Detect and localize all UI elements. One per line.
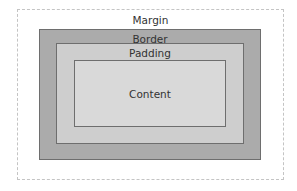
content-area: Content	[74, 60, 226, 127]
margin-label: Margin	[18, 14, 283, 26]
padding-label: Padding	[57, 47, 243, 59]
content-label: Content	[75, 88, 225, 100]
